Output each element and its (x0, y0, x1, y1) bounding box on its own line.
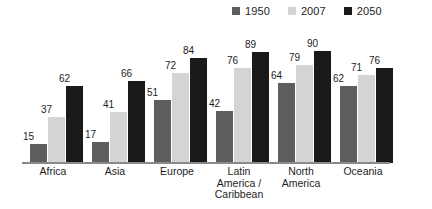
bar-slot: 84 (190, 30, 207, 163)
bar-slot: 17 (92, 30, 109, 163)
bar-group: 517284 (154, 30, 207, 163)
bar-1950[interactable] (278, 83, 295, 163)
bar-value-label: 71 (348, 63, 365, 73)
category-label: Asia (84, 166, 146, 178)
bar-value-label: 62 (330, 74, 347, 84)
legend-item-2007[interactable]: 2007 (288, 4, 326, 18)
bar-value-label: 64 (268, 71, 285, 81)
bar-value-label: 17 (82, 130, 99, 140)
bar-slot: 90 (314, 30, 331, 163)
plot-area: 153762174166517284427689647990627176 (22, 30, 390, 163)
bar-1950[interactable] (340, 86, 357, 163)
bar-2007[interactable] (48, 117, 65, 163)
bar-value-label: 72 (162, 61, 179, 71)
legend-item-label: 1950 (245, 6, 270, 17)
bar-2007[interactable] (234, 68, 251, 163)
chart-legend: 195020072050 (232, 4, 382, 18)
bar-value-label: 90 (304, 39, 321, 49)
bar-value-label: 79 (286, 53, 303, 63)
category-label: Oceania (332, 166, 394, 178)
x-axis-baseline (22, 162, 390, 164)
bar-2050[interactable] (314, 51, 331, 163)
bar-slot: 42 (216, 30, 233, 163)
category-label: North America (270, 166, 332, 189)
bar-slot: 64 (278, 30, 295, 163)
bar-value-label: 15 (20, 132, 37, 142)
bar-slot: 62 (340, 30, 357, 163)
bar-2007[interactable] (172, 73, 189, 163)
bar-slot: 76 (376, 30, 393, 163)
bar-slot: 51 (154, 30, 171, 163)
bar-slot: 15 (30, 30, 47, 163)
bar-2050[interactable] (190, 58, 207, 163)
bar-1950[interactable] (154, 100, 171, 163)
bar-slot: 89 (252, 30, 269, 163)
bar-group: 174166 (92, 30, 145, 163)
legend-swatch-icon (344, 7, 352, 15)
bar-value-label: 41 (100, 100, 117, 110)
bar-2007[interactable] (296, 65, 313, 163)
bar-group: 427689 (216, 30, 269, 163)
bar-1950[interactable] (92, 142, 109, 163)
category-label-row: AfricaAsiaEuropeLatin America / Caribbea… (22, 166, 390, 208)
bar-value-label: 66 (118, 69, 135, 79)
legend-item-2050[interactable]: 2050 (344, 4, 382, 18)
legend-item-label: 2050 (357, 6, 382, 17)
bar-2050[interactable] (252, 52, 269, 163)
bar-value-label: 84 (180, 46, 197, 56)
category-label: Latin America / Caribbean (208, 166, 270, 201)
bar-group: 153762 (30, 30, 83, 163)
bar-2050[interactable] (66, 86, 83, 163)
bar-1950[interactable] (216, 111, 233, 163)
bar-2007[interactable] (110, 112, 127, 163)
legend-item-1950[interactable]: 1950 (232, 4, 270, 18)
legend-swatch-icon (288, 7, 296, 15)
bar-slot: 66 (128, 30, 145, 163)
bar-2007[interactable] (358, 75, 375, 163)
bar-slot: 71 (358, 30, 375, 163)
bar-slot: 79 (296, 30, 313, 163)
bar-2050[interactable] (128, 81, 145, 163)
bar-group: 627176 (340, 30, 393, 163)
bar-2050[interactable] (376, 68, 393, 163)
bar-slot: 41 (110, 30, 127, 163)
legend-item-label: 2007 (301, 6, 326, 17)
category-label: Africa (22, 166, 84, 178)
bar-value-label: 76 (224, 56, 241, 66)
bar-value-label: 42 (206, 99, 223, 109)
bar-value-label: 62 (56, 74, 73, 84)
bar-slot: 37 (48, 30, 65, 163)
bar-value-label: 37 (38, 105, 55, 115)
bar-1950[interactable] (30, 144, 47, 163)
bar-value-label: 51 (144, 88, 161, 98)
bar-value-label: 76 (366, 56, 383, 66)
bar-slot: 62 (66, 30, 83, 163)
bar-group: 647990 (278, 30, 331, 163)
category-label: Europe (146, 166, 208, 178)
legend-swatch-icon (232, 7, 240, 15)
bar-chart: 195020072050 153762174166517284427689647… (0, 0, 432, 209)
bar-value-label: 89 (242, 40, 259, 50)
